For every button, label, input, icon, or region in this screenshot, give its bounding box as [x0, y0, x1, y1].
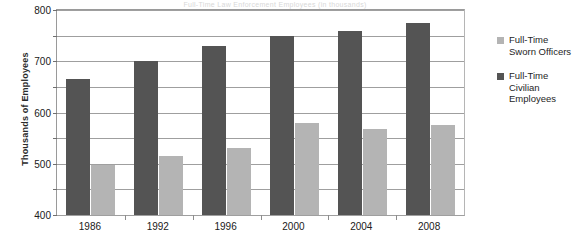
x-axis-tick	[396, 215, 397, 220]
bar-group	[193, 10, 261, 215]
x-axis-tick	[261, 215, 262, 220]
bar-group	[261, 10, 329, 215]
bar-group	[396, 10, 464, 215]
bar-sworn-1986	[91, 165, 115, 215]
bar-civilian-1992	[134, 61, 158, 215]
y-tick-label: 600	[34, 107, 51, 118]
x-tick-label-2004: 2004	[350, 221, 372, 232]
legend-entry-sworn[interactable]: Full-Time Sworn Officers	[497, 34, 585, 57]
y-axis-title: Thousands of Employees	[20, 24, 30, 194]
bar-group	[125, 10, 193, 215]
x-tick-label-2008: 2008	[418, 221, 440, 232]
x-tick-label-2000: 2000	[282, 221, 304, 232]
legend-label: Full-Time Civilian Employees	[509, 70, 556, 105]
chart-legend: Full-Time Sworn OfficersFull-Time Civili…	[497, 34, 585, 118]
x-axis-tick	[193, 215, 194, 220]
bar-sworn-1992	[159, 156, 183, 215]
bar-sworn-1996	[227, 148, 251, 215]
y-tick-label: 800	[34, 5, 51, 16]
x-tick-label-1986: 1986	[79, 221, 101, 232]
y-tick-mark	[53, 215, 57, 216]
bar-civilian-1986	[66, 79, 90, 215]
bar-sworn-2000	[295, 123, 319, 215]
bar-civilian-2008	[406, 23, 430, 215]
bar-civilian-2004	[338, 31, 362, 216]
bar-group	[57, 10, 125, 215]
plot-area: 0100200300400500600700800	[56, 9, 465, 216]
x-axis-tick	[328, 215, 329, 220]
x-tick-label-1992: 1992	[147, 221, 169, 232]
y-tick-label: 400	[34, 210, 51, 221]
legend-swatch-icon-sworn	[497, 37, 504, 44]
legend-entry-civilian[interactable]: Full-Time Civilian Employees	[497, 70, 585, 105]
legend-label: Full-Time Sworn Officers	[509, 34, 571, 57]
bar-group	[328, 10, 396, 215]
x-axis-labels: 198619921996200020042008	[56, 221, 465, 237]
y-tick-label: 500	[34, 158, 51, 169]
bar-civilian-2000	[270, 36, 294, 215]
x-tick-label-1996: 1996	[214, 221, 236, 232]
bar-sworn-2004	[363, 129, 387, 215]
bar-sworn-2008	[431, 125, 455, 215]
bar-chart-figure: Full-Time Law Enforcement Employees (in …	[0, 0, 587, 245]
legend-swatch-icon-civilian	[497, 73, 504, 80]
bar-series-container	[57, 10, 464, 215]
x-axis-tick	[125, 215, 126, 220]
y-tick-label: 700	[34, 56, 51, 67]
cropped-title-text: Full-Time Law Enforcement Employees (in …	[110, 0, 440, 9]
bar-civilian-1996	[202, 46, 226, 215]
